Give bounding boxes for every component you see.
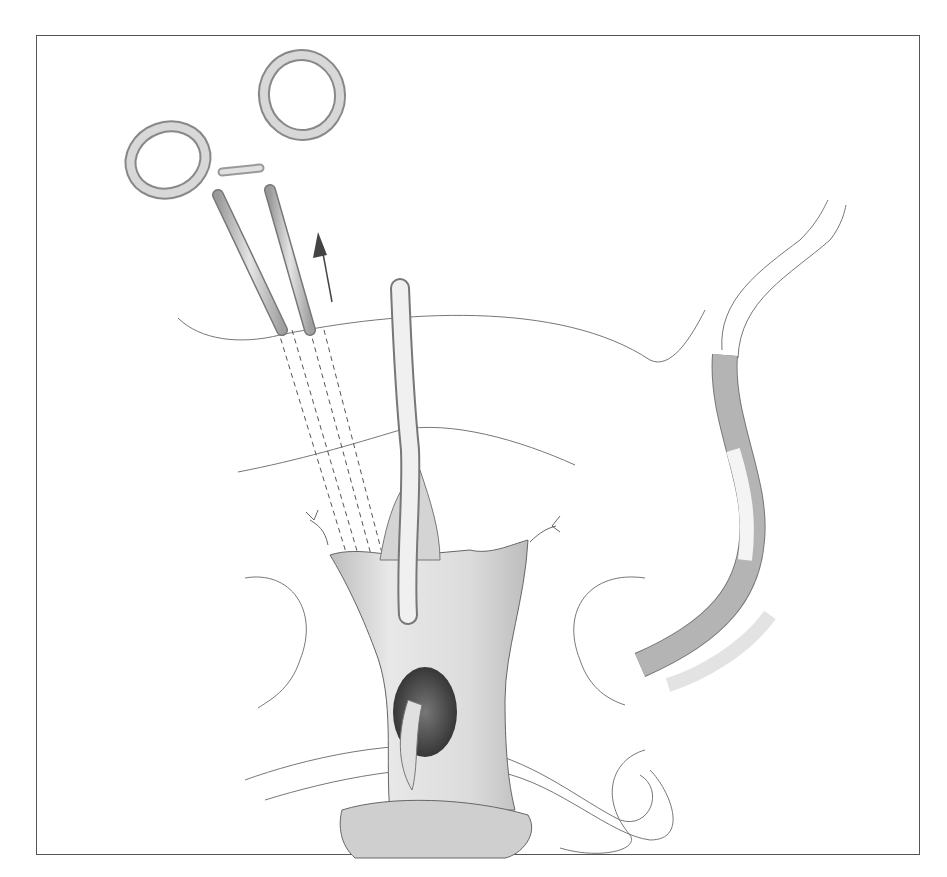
hemostat-forceps-icon — [121, 49, 346, 330]
graft-tube — [640, 355, 770, 685]
illustration — [0, 0, 947, 877]
incision-retractor — [306, 470, 560, 858]
catheter-tube — [400, 288, 410, 615]
upward-arrow-icon — [313, 232, 332, 302]
